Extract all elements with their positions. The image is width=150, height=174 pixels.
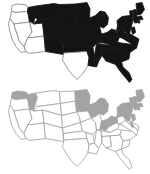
state-az	[24, 123, 46, 141]
state-nj	[131, 27, 136, 35]
state-me	[136, 90, 145, 103]
state-tx	[63, 139, 90, 167]
us-map-svg-bottom	[0, 87, 150, 174]
state-fl	[116, 149, 133, 170]
state-shape-group-bottom	[9, 90, 145, 170]
us-map-panel-bottom	[0, 87, 150, 174]
us-map-svg-top	[0, 0, 150, 87]
state-az	[24, 36, 46, 54]
state-nj	[131, 114, 136, 122]
state-mn	[75, 90, 90, 113]
two-panel-us-map-figure	[0, 0, 150, 174]
us-map-panel-top	[0, 0, 150, 87]
state-fl	[116, 62, 133, 83]
state-me	[136, 3, 145, 16]
state-ri	[138, 21, 140, 24]
state-tx	[63, 52, 90, 80]
state-shape-group-top	[9, 3, 145, 83]
state-mn	[75, 3, 90, 26]
state-ri	[138, 108, 140, 111]
